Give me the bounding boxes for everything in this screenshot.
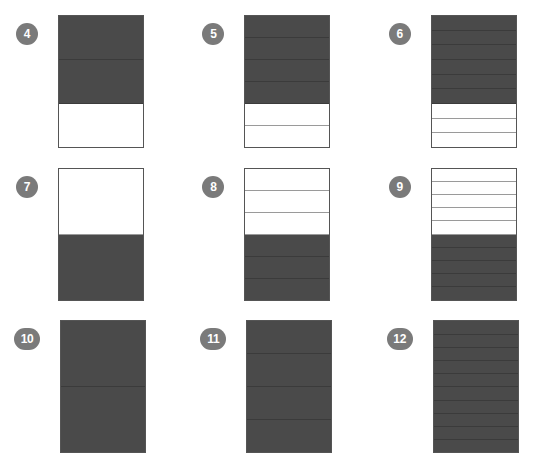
bar-part-4-shaded[interactable] <box>434 361 518 374</box>
fraction-item-11: 11 <box>186 305 372 458</box>
bar-part-1-shaded[interactable] <box>245 16 329 38</box>
bar-part-3-unshaded[interactable] <box>432 195 516 208</box>
bar-part-8-shaded[interactable] <box>434 414 518 427</box>
fraction-item-6: 6 <box>373 0 559 153</box>
item-number-badge: 8 <box>202 176 224 198</box>
bar-part-4-shaded[interactable] <box>245 235 329 257</box>
item-number-badge: 5 <box>202 23 224 45</box>
bar-part-3-shaded[interactable] <box>247 387 331 420</box>
bar-part-1-shaded[interactable] <box>61 321 145 387</box>
fraction-item-12: 12 <box>373 305 559 458</box>
bar-part-2-shaded[interactable] <box>59 60 143 104</box>
bar-part-2-shaded[interactable] <box>434 335 518 348</box>
bar-part-6-shaded[interactable] <box>432 89 516 104</box>
item-number-badge: 7 <box>16 176 38 198</box>
fraction-item-9: 9 <box>373 153 559 306</box>
fraction-item-7: 7 <box>0 153 186 306</box>
item-number-badge: 11 <box>200 328 226 350</box>
bar-part-6-shaded[interactable] <box>432 235 516 248</box>
bar-part-10-shaded[interactable] <box>434 440 518 452</box>
bar-part-3-unshaded[interactable] <box>59 104 143 147</box>
bar-part-6-shaded[interactable] <box>434 387 518 400</box>
bar-part-6-unshaded[interactable] <box>245 126 329 147</box>
fraction-bar-wrapper <box>431 15 517 148</box>
bar-part-9-shaded[interactable] <box>432 274 516 287</box>
bar-part-1-unshaded[interactable] <box>59 169 143 235</box>
bar-part-4-shaded[interactable] <box>432 60 516 75</box>
fraction-bar-wrapper <box>58 168 144 301</box>
bar-part-4-unshaded[interactable] <box>432 208 516 221</box>
item-number-badge: 9 <box>389 176 411 198</box>
bar-part-9-unshaded[interactable] <box>432 133 516 147</box>
fraction-item-5: 5 <box>186 0 372 153</box>
fraction-bar[interactable] <box>58 15 144 148</box>
fraction-bar-wrapper <box>246 320 332 453</box>
bar-part-1-shaded[interactable] <box>59 16 143 60</box>
fraction-item-10: 10 <box>0 305 186 458</box>
bar-part-5-shaded[interactable] <box>245 257 329 279</box>
bar-part-10-shaded[interactable] <box>432 287 516 299</box>
bar-part-1-shaded[interactable] <box>432 16 516 31</box>
fraction-item-4: 4 <box>0 0 186 153</box>
fraction-bar[interactable] <box>246 320 332 453</box>
bar-part-8-shaded[interactable] <box>432 261 516 274</box>
bar-part-4-shaded[interactable] <box>245 82 329 104</box>
bar-part-3-shaded[interactable] <box>432 45 516 60</box>
bar-part-5-unshaded[interactable] <box>245 104 329 126</box>
bar-part-3-unshaded[interactable] <box>245 213 329 235</box>
fraction-bar-wrapper <box>244 168 330 301</box>
fraction-bar-wrapper <box>244 15 330 148</box>
bar-part-7-shaded[interactable] <box>434 401 518 414</box>
bar-part-7-shaded[interactable] <box>432 248 516 261</box>
fraction-bar[interactable] <box>431 168 517 301</box>
bar-part-1-shaded[interactable] <box>247 321 331 354</box>
bar-part-3-shaded[interactable] <box>245 60 329 82</box>
fraction-bar-wrapper <box>60 320 146 453</box>
bar-part-6-shaded[interactable] <box>245 279 329 300</box>
fraction-bar[interactable] <box>60 320 146 453</box>
bar-part-2-shaded[interactable] <box>247 354 331 387</box>
bar-part-2-shaded[interactable] <box>432 31 516 46</box>
bar-part-2-unshaded[interactable] <box>432 182 516 195</box>
fraction-bar[interactable] <box>244 168 330 301</box>
bar-part-5-shaded[interactable] <box>434 374 518 387</box>
fraction-bar[interactable] <box>433 320 519 453</box>
item-number-badge: 4 <box>16 23 38 45</box>
bar-part-1-unshaded[interactable] <box>432 169 516 182</box>
bar-part-1-shaded[interactable] <box>434 321 518 334</box>
bar-part-2-unshaded[interactable] <box>245 191 329 213</box>
bar-part-4-shaded[interactable] <box>247 420 331 452</box>
fraction-bar[interactable] <box>244 15 330 148</box>
fraction-bar-wrapper <box>433 320 519 453</box>
fraction-bar-wrapper <box>431 168 517 301</box>
bar-part-1-unshaded[interactable] <box>245 169 329 191</box>
bar-part-8-unshaded[interactable] <box>432 119 516 134</box>
bar-part-2-shaded[interactable] <box>59 235 143 300</box>
item-number-badge: 10 <box>14 328 40 350</box>
item-number-badge: 6 <box>389 23 411 45</box>
bar-part-2-shaded[interactable] <box>61 387 145 452</box>
item-number-badge: 12 <box>387 328 413 350</box>
fraction-item-8: 8 <box>186 153 372 306</box>
fraction-bar[interactable] <box>431 15 517 148</box>
fraction-bar-worksheet: 456789101112 <box>0 0 559 458</box>
bar-part-9-shaded[interactable] <box>434 427 518 440</box>
bar-part-5-unshaded[interactable] <box>432 221 516 234</box>
fraction-bar[interactable] <box>58 168 144 301</box>
bar-part-2-shaded[interactable] <box>245 38 329 60</box>
bar-part-7-unshaded[interactable] <box>432 104 516 119</box>
bar-part-3-shaded[interactable] <box>434 348 518 361</box>
fraction-bar-wrapper <box>58 15 144 148</box>
bar-part-5-shaded[interactable] <box>432 75 516 90</box>
